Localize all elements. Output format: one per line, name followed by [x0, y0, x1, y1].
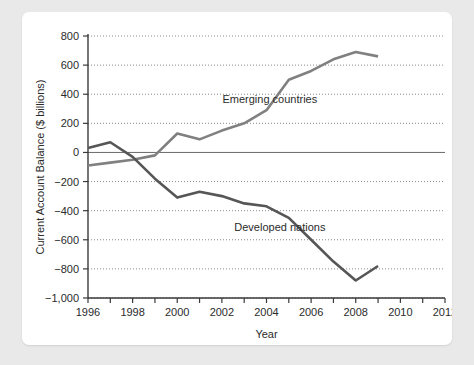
data-series: [88, 52, 378, 281]
chart-figure: 199619982000200220042006200820102012 800…: [0, 0, 474, 365]
chart-card: 199619982000200220042006200820102012 800…: [22, 12, 452, 345]
y-axis-ticks: [83, 36, 88, 298]
series-line: [88, 52, 378, 166]
y-tick-label: 600: [61, 59, 79, 71]
y-tick-label: 800: [61, 30, 79, 42]
x-axis-ticks: [88, 298, 445, 303]
y-tick-label: 400: [61, 88, 79, 100]
y-tick-label: −200: [54, 176, 79, 188]
series-annotation-label: Emerging countries: [222, 93, 317, 105]
x-tick-label: 2004: [254, 306, 278, 318]
series-line: [88, 142, 378, 280]
y-tick-label: −600: [54, 234, 79, 246]
y-tick-label: 200: [61, 117, 79, 129]
x-axis-tick-labels: 199619982000200220042006200820102012: [76, 306, 452, 318]
y-tick-label: 0: [73, 146, 79, 158]
y-axis-title: Current Account Balance ($ billions): [34, 80, 46, 255]
series-annotation-label: Developed nations: [234, 221, 326, 233]
line-chart: 199619982000200220042006200820102012 800…: [22, 12, 452, 345]
x-axis-title: Year: [255, 328, 278, 340]
y-tick-label: −400: [54, 205, 79, 217]
x-tick-label: 2000: [165, 306, 189, 318]
y-axis-tick-labels: 8006004002000−200−400−600−800−1,000: [45, 30, 79, 304]
y-tick-label: −800: [54, 263, 79, 275]
x-tick-label: 2012: [433, 306, 452, 318]
x-tick-label: 2002: [210, 306, 234, 318]
x-tick-label: 2006: [299, 306, 323, 318]
series-annotations: Emerging countriesDeveloped nations: [222, 93, 325, 233]
x-tick-label: 2010: [388, 306, 412, 318]
x-tick-label: 1996: [76, 306, 100, 318]
x-tick-label: 1998: [120, 306, 144, 318]
y-tick-label: −1,000: [45, 292, 79, 304]
x-tick-label: 2008: [344, 306, 368, 318]
